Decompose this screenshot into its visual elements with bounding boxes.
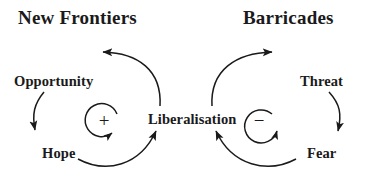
node-opportunity: Opportunity [14,74,93,89]
loop-title-left: New Frontiers [18,8,137,27]
left-loop-polarity-symbol: + [95,111,113,130]
link-threat-to-fear [329,92,340,131]
link-liberalisation-to-threat [212,52,272,106]
link-hope-to-liberalisation [78,131,156,166]
loop-title-right: Barricades [243,8,334,27]
right-loop-polarity-symbol: − [250,111,268,130]
node-fear: Fear [307,146,336,161]
link-fear-to-liberalisation [216,131,296,166]
node-liberalisation: Liberalisation [146,111,238,128]
node-hope: Hope [42,146,75,161]
causal-loop-diagram: New Frontiers Barricades [0,0,372,187]
link-liberalisation-to-opportunity [103,52,160,106]
link-opportunity-to-hope [34,92,44,130]
node-threat: Threat [300,74,343,89]
